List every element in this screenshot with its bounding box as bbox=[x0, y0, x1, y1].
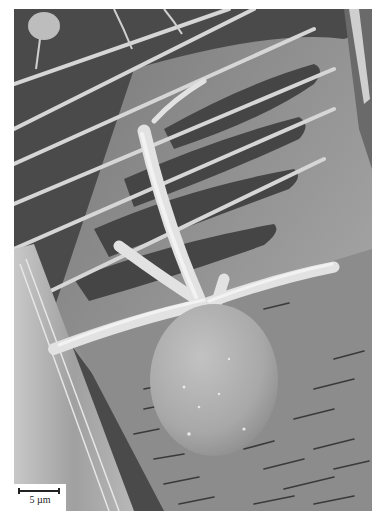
micrograph-illustration bbox=[14, 9, 372, 511]
micrograph-image bbox=[14, 9, 372, 511]
scale-bar-line bbox=[18, 490, 60, 492]
scale-bar: 5 µm bbox=[14, 484, 66, 511]
scale-bar-label: 5 µm bbox=[14, 494, 66, 505]
